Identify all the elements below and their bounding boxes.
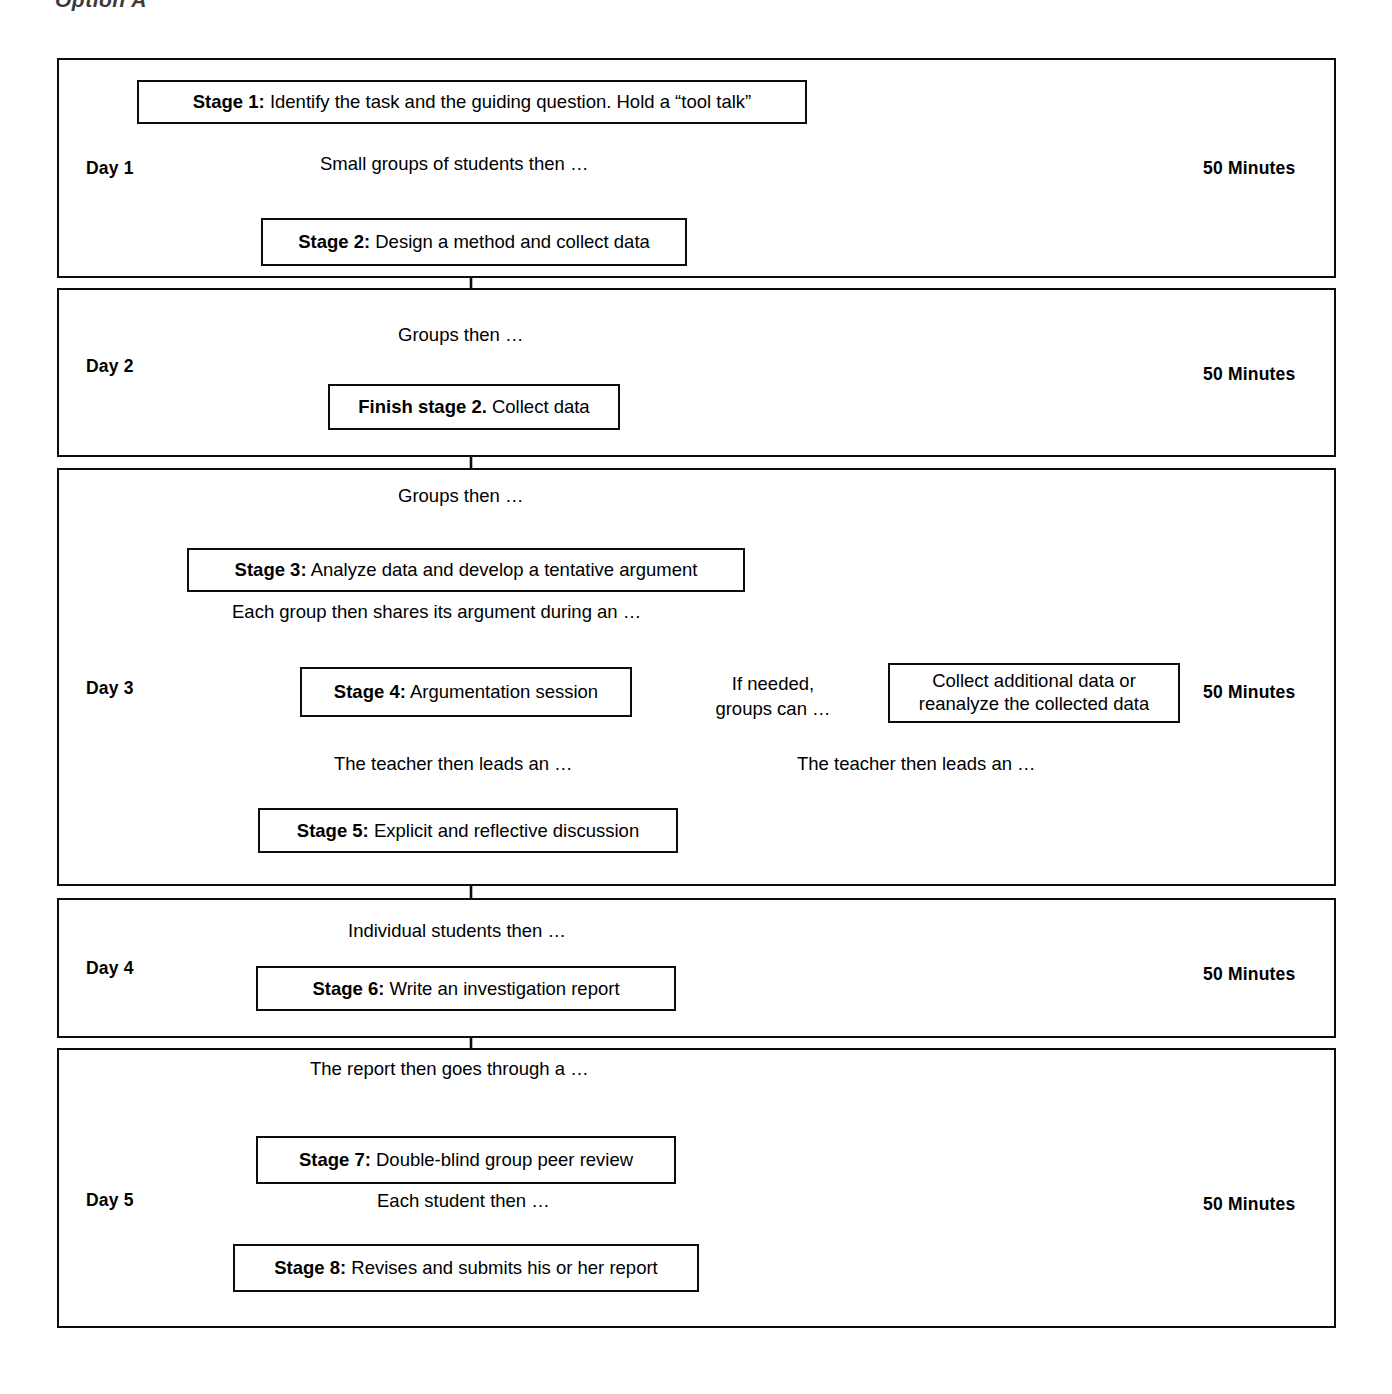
stage-7-box[interactable]: Stage 7: Double-blind group peer review bbox=[256, 1136, 676, 1184]
finish-stage-2-text: Collect data bbox=[487, 395, 590, 419]
stage-7-label: Stage 7: bbox=[299, 1148, 371, 1172]
day-container-2 bbox=[57, 288, 1336, 457]
stage-1-label: Stage 1: bbox=[193, 90, 265, 114]
finish-stage-2-box[interactable]: Finish stage 2. Collect data bbox=[328, 384, 620, 430]
connector-day5-b: Each student then … bbox=[377, 1189, 550, 1213]
day-container-4 bbox=[57, 898, 1336, 1038]
stage-2-text: Design a method and collect data bbox=[370, 230, 650, 254]
day-label-1: Day 1 bbox=[86, 158, 134, 179]
stage-4-text: Argumentation session bbox=[406, 680, 598, 704]
stage-6-label: Stage 6: bbox=[312, 977, 384, 1001]
day-duration-1: 50 Minutes bbox=[1203, 158, 1295, 179]
connector-day3-return: The teacher then leads an … bbox=[797, 752, 1036, 776]
stage-6-box[interactable]: Stage 6: Write an investigation report bbox=[256, 966, 676, 1011]
connector-day2-a: Groups then … bbox=[398, 323, 523, 347]
stage-8-text: Revises and submits his or her report bbox=[346, 1256, 658, 1280]
connector-day3-b: Each group then shares its argument duri… bbox=[232, 600, 641, 624]
stage-4-label: Stage 4: bbox=[334, 680, 406, 704]
day-duration-4: 50 Minutes bbox=[1203, 964, 1295, 985]
stage-1-box[interactable]: Stage 1: Identify the task and the guidi… bbox=[137, 80, 807, 124]
day-duration-2: 50 Minutes bbox=[1203, 364, 1295, 385]
stage-3-text: Analyze data and develop a tentative arg… bbox=[307, 558, 698, 582]
stage-2-label: Stage 2: bbox=[298, 230, 370, 254]
connector-day4-a: Individual students then … bbox=[348, 919, 566, 943]
collect-box-line-1: Collect additional data or bbox=[932, 670, 1136, 693]
day-label-4: Day 4 bbox=[86, 958, 134, 979]
branch-label-line-1: If needed, bbox=[707, 672, 839, 697]
stage-5-box[interactable]: Stage 5: Explicit and reflective discuss… bbox=[258, 808, 678, 853]
collect-additional-data-box[interactable]: Collect additional data or reanalyze the… bbox=[888, 663, 1180, 723]
stage-5-label: Stage 5: bbox=[297, 819, 369, 843]
connector-day5-a: The report then goes through a … bbox=[310, 1057, 589, 1081]
stage-3-box[interactable]: Stage 3: Analyze data and develop a tent… bbox=[187, 548, 745, 592]
collect-box-line-2: reanalyze the collected data bbox=[919, 693, 1149, 716]
branch-label-line-2: groups can … bbox=[707, 697, 839, 722]
finish-stage-2-label: Finish stage 2. bbox=[358, 395, 487, 419]
connector-day3-branch-label: If needed, groups can … bbox=[707, 672, 839, 722]
connector-day3-a: Groups then … bbox=[398, 484, 523, 508]
stage-6-text: Write an investigation report bbox=[384, 977, 619, 1001]
stage-3-label: Stage 3: bbox=[235, 558, 307, 582]
stage-8-box[interactable]: Stage 8: Revises and submits his or her … bbox=[233, 1244, 699, 1292]
stage-2-box[interactable]: Stage 2: Design a method and collect dat… bbox=[261, 218, 687, 266]
day-duration-5: 50 Minutes bbox=[1203, 1194, 1295, 1215]
stage-8-label: Stage 8: bbox=[274, 1256, 346, 1280]
connector-day1-a: Small groups of students then … bbox=[320, 152, 588, 176]
stage-5-text: Explicit and reflective discussion bbox=[369, 819, 639, 843]
stage-7-text: Double-blind group peer review bbox=[371, 1148, 633, 1172]
diagram-canvas: Option A Day 1 bbox=[0, 0, 1392, 1394]
day-label-3: Day 3 bbox=[86, 678, 134, 699]
day-label-5: Day 5 bbox=[86, 1190, 134, 1211]
stage-4-box[interactable]: Stage 4: Argumentation session bbox=[300, 667, 632, 717]
figure-title: Option A bbox=[55, 0, 147, 12]
stage-1-text: Identify the task and the guiding questi… bbox=[265, 90, 751, 114]
day-label-2: Day 2 bbox=[86, 356, 134, 377]
connector-day3-c: The teacher then leads an … bbox=[334, 752, 573, 776]
day-duration-3: 50 Minutes bbox=[1203, 682, 1295, 703]
